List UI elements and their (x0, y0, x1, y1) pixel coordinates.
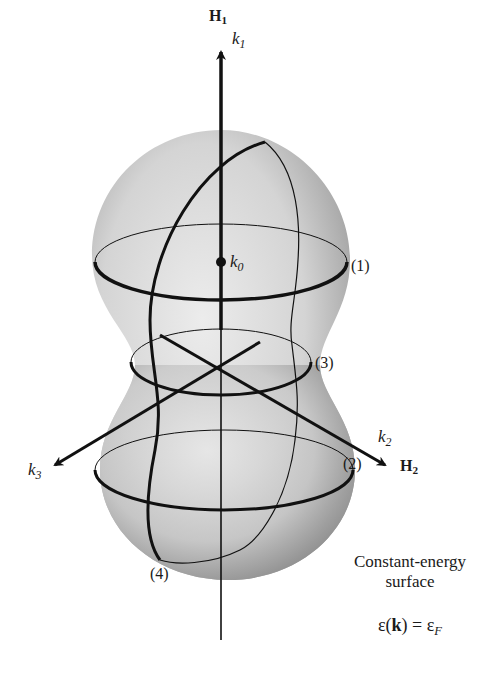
orbit-4-label: (4) (150, 566, 169, 582)
figure-caption: Constant-energy surface (335, 552, 485, 592)
k0-label: k0 (230, 253, 244, 273)
k3-label: k3 (28, 461, 42, 481)
caption-line-2: surface (335, 572, 485, 592)
h1-label: H1 (209, 8, 227, 27)
h2-label: H2 (400, 458, 418, 477)
orbit-1-label: (1) (351, 258, 370, 274)
k2-label: k2 (378, 428, 392, 448)
fermi-equation: ε(k) = εF (335, 615, 485, 639)
k1-label: k1 (232, 30, 246, 50)
lower-lobe-shading (100, 365, 355, 580)
caption-line-1: Constant-energy (335, 552, 485, 572)
orbit-3-label: (3) (315, 355, 334, 371)
k0-point (216, 257, 226, 267)
orbit-2-label: (2) (343, 456, 362, 472)
